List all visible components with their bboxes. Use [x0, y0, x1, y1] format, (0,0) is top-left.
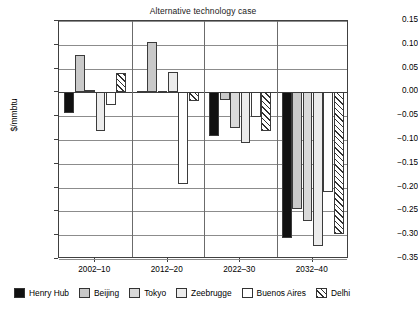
y-axis-tick: 0.05	[366, 64, 418, 72]
legend-swatch-icon	[176, 288, 187, 298]
bar-zeebrugge	[313, 92, 323, 245]
bar-delhi	[116, 73, 126, 93]
legend-swatch-icon	[129, 288, 140, 298]
bar-group	[277, 21, 350, 257]
legend-label: Tokyo	[144, 288, 166, 298]
bar-tokyo	[85, 90, 95, 93]
y-axis-tick: −0.35	[366, 254, 418, 262]
bar-henryhub	[64, 92, 74, 113]
y-axis-tick: 0.10	[366, 40, 418, 48]
bar-zeebrugge	[241, 92, 251, 142]
bar-tokyo	[303, 92, 313, 221]
x-axis-tick: 2002–10	[54, 265, 134, 274]
chart-legend: Henry HubBeijingTokyoZeebruggeBuenos Air…	[14, 285, 410, 301]
bar-henryhub	[282, 92, 292, 237]
legend-label: Buenos Aires	[257, 288, 306, 298]
y-axis-tick: −0.05	[366, 111, 418, 119]
bar-tokyo	[230, 92, 240, 127]
y-axis-tick: −0.25	[366, 206, 418, 214]
chart-title: Alternative technology case	[58, 6, 348, 16]
legend-swatch-icon	[242, 288, 253, 298]
legend-swatch-icon	[79, 288, 90, 298]
bar-beijing	[75, 55, 85, 92]
legend-swatch-icon	[316, 288, 327, 298]
legend-item-tokyo[interactable]: Tokyo	[129, 288, 166, 298]
bar-group	[132, 21, 205, 257]
plot-area	[58, 20, 348, 258]
bar-henryhub	[209, 92, 219, 135]
legend-item-zeebrugge[interactable]: Zeebrugge	[176, 288, 232, 298]
y-axis-tick: 0.00	[366, 87, 418, 95]
y-axis-tick: −0.30	[366, 230, 418, 238]
y-axis-label: $/mmbtu	[9, 75, 19, 155]
y-axis-tick: −0.10	[366, 135, 418, 143]
legend-item-delhi[interactable]: Delhi	[316, 288, 350, 298]
legend-label: Henry Hub	[29, 288, 69, 298]
y-axis-tick: −0.15	[366, 159, 418, 167]
legend-swatch-icon	[14, 288, 25, 298]
bar-beijing	[292, 92, 302, 209]
legend-label: Beijing	[94, 288, 119, 298]
bar-zeebrugge	[96, 92, 106, 131]
bar-henryhub	[137, 91, 147, 93]
bar-zeebrugge	[168, 72, 178, 92]
bar-group	[204, 21, 277, 257]
bar-delhi	[334, 92, 344, 233]
legend-label: Zeebrugge	[191, 288, 232, 298]
x-axis-tick: 2022–30	[199, 265, 279, 274]
chart-figure: Alternative technology case $/mmbtu 0.15…	[0, 0, 418, 311]
bar-beijing	[220, 92, 230, 100]
legend-item-buenosaires[interactable]: Buenos Aires	[242, 288, 306, 298]
bar-buenosaires	[178, 92, 188, 184]
bar-buenosaires	[251, 92, 261, 116]
legend-item-henryhub[interactable]: Henry Hub	[14, 288, 69, 298]
bar-buenosaires	[323, 92, 333, 192]
bar-beijing	[147, 42, 157, 92]
bar-group	[59, 21, 132, 257]
bar-buenosaires	[106, 92, 116, 105]
gridline	[59, 259, 347, 260]
bar-tokyo	[158, 91, 168, 93]
bar-delhi	[261, 92, 271, 131]
y-axis-tick-mark	[54, 258, 58, 259]
legend-item-beijing[interactable]: Beijing	[79, 288, 119, 298]
y-axis-tick: 0.15	[366, 16, 418, 24]
bar-delhi	[189, 92, 199, 101]
x-axis-tick: 2032–40	[272, 265, 352, 274]
legend-label: Delhi	[331, 288, 350, 298]
y-axis-tick: −0.20	[366, 183, 418, 191]
x-axis-tick: 2012–20	[127, 265, 207, 274]
